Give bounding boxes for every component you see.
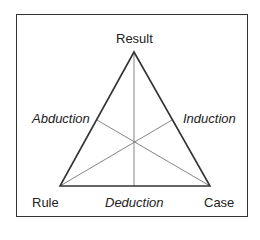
vertex-label-rule: Rule [32,196,59,209]
side-label-abduction: Abduction [32,112,90,125]
median-rule [60,120,172,186]
median-case [97,120,210,186]
vertex-label-case: Case [204,196,234,209]
vertex-label-result: Result [116,32,153,45]
side-label-deduction: Deduction [105,196,164,209]
side-label-induction: Induction [183,112,236,125]
